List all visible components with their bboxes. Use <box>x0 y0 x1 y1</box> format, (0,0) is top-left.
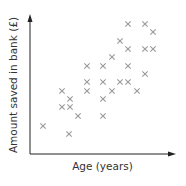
y-axis-label-text: Amount saved in bank (£) <box>7 17 19 153</box>
data-point-x-marker <box>125 79 130 84</box>
data-point-x-marker <box>84 63 89 68</box>
data-point-x-marker <box>125 21 130 26</box>
data-point-x-marker <box>150 46 155 51</box>
data-point-x-marker <box>142 71 147 76</box>
data-point-x-marker <box>59 88 64 93</box>
scatter-chart: Amount saved in bank (£) Age (years) <box>0 0 186 186</box>
data-point-x-marker <box>75 113 80 118</box>
data-point-x-marker <box>125 63 130 68</box>
data-point-x-marker <box>67 96 72 101</box>
data-point-x-marker <box>150 29 155 34</box>
plot-area <box>0 0 186 186</box>
data-point-x-marker <box>59 104 64 109</box>
data-point-x-marker <box>66 131 71 136</box>
data-point-x-marker <box>100 79 105 84</box>
data-point-x-marker <box>67 104 72 109</box>
data-points <box>40 21 155 136</box>
data-point-x-marker <box>142 21 147 26</box>
axes <box>28 14 177 157</box>
data-point-x-marker <box>117 79 122 84</box>
data-point-x-marker <box>84 88 89 93</box>
y-axis-arrow-icon <box>28 14 33 22</box>
x-axis-label: Age (years) <box>30 160 175 172</box>
data-point-x-marker <box>84 79 89 84</box>
x-axis-arrow-icon <box>168 152 176 157</box>
data-point-x-marker <box>40 123 45 128</box>
data-point-x-marker <box>100 113 105 118</box>
data-point-x-marker <box>125 46 130 51</box>
data-point-x-marker <box>100 63 105 68</box>
data-point-x-marker <box>109 54 114 59</box>
data-point-x-marker <box>134 88 139 93</box>
data-point-x-marker <box>142 46 147 51</box>
data-point-x-marker <box>109 88 114 93</box>
data-point-x-marker <box>117 38 122 43</box>
y-axis-label: Amount saved in bank (£) <box>5 20 21 150</box>
data-point-x-marker <box>100 96 105 101</box>
